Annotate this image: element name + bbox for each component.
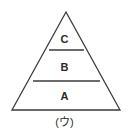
pyramid-tier-label-c: C — [0, 34, 129, 45]
pyramid-tier-label-a: A — [0, 91, 129, 102]
pyramid-figure: C B A (ウ) — [0, 0, 129, 133]
pyramid-tier-label-b: B — [0, 62, 129, 73]
figure-caption: (ウ) — [0, 116, 129, 129]
